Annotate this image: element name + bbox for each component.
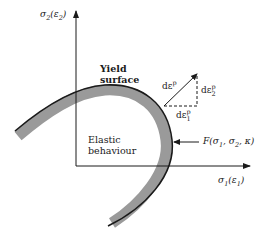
sigma1-axis-label: σ1(ε1) [218, 176, 244, 185]
sigma2-axis-label: σ2(ε2) [40, 10, 66, 19]
yield-surface-label-line1: Yield [100, 64, 139, 75]
elastic-label-line2: behaviour [88, 146, 136, 157]
strain-component-2-label: dεp2 [201, 86, 216, 95]
elastic-label-line1: Elastic [88, 135, 136, 146]
elastic-behaviour-label: Elastic behaviour [88, 135, 136, 156]
yield-surface-band [18, 90, 166, 223]
strain-component-1-label: dεp1 [176, 111, 191, 120]
yield-surface-label: Yield surface [100, 64, 139, 85]
plastic-strain-increment-label: dεp [162, 82, 177, 91]
yield-surface-label-line2: surface [100, 75, 139, 86]
yield-surface-diagram [0, 0, 272, 234]
yield-function-label: F(σ1, σ2, κ) [203, 137, 254, 146]
